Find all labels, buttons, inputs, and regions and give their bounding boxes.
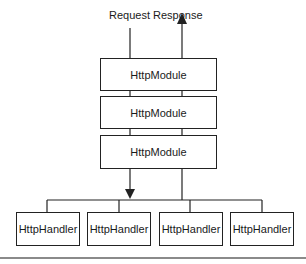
- response-label: Response: [153, 9, 203, 21]
- http-handler-box: HttpHandler: [87, 212, 151, 246]
- request-label: Request: [109, 9, 150, 21]
- http-handler-box: HttpHandler: [230, 212, 294, 246]
- http-module-box: HttpModule: [100, 96, 217, 129]
- http-handler-box: HttpHandler: [16, 212, 80, 246]
- http-module-box: HttpModule: [100, 58, 217, 91]
- http-module-box: HttpModule: [100, 135, 217, 169]
- http-handler-box: HttpHandler: [159, 212, 223, 246]
- bottom-divider: [0, 257, 306, 259]
- request-arrow-icon: [125, 189, 135, 199]
